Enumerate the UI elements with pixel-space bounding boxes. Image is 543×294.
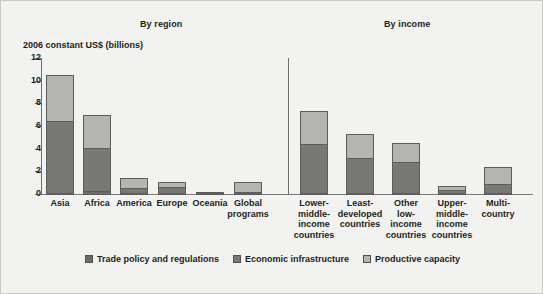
bar-segment-trade	[346, 193, 374, 195]
bar-segment-trade	[234, 193, 262, 195]
legend-swatch-icon	[233, 255, 241, 263]
bars-layer	[41, 58, 533, 194]
bar-global-programs[interactable]	[234, 182, 262, 194]
y-tick-label: 12	[15, 53, 41, 62]
legend-swatch-icon	[85, 255, 93, 263]
bar-segment-econ	[392, 162, 420, 194]
bar-segment-trade	[392, 193, 420, 195]
bar-segment-prod	[484, 167, 512, 185]
y-tick-label: 8	[15, 98, 41, 107]
bar-multi-country[interactable]	[484, 167, 512, 194]
x-axis-label-line: countries	[285, 230, 343, 241]
legend-item[interactable]: Trade policy and regulations	[85, 254, 219, 264]
bar-segment-prod	[346, 134, 374, 159]
y-tick-label: 6	[15, 121, 41, 130]
bar-least-developed-countries[interactable]	[346, 134, 374, 194]
x-axis-label-line: income	[423, 219, 481, 230]
bar-segment-trade	[158, 193, 186, 195]
bar-segment-trade	[83, 191, 111, 195]
x-axis-label: Multi-country	[469, 198, 527, 219]
bar-segment-prod	[83, 115, 111, 149]
bar-segment-econ	[83, 148, 111, 192]
bar-lower-middle-income-countries[interactable]	[300, 111, 328, 194]
legend-label: Economic infrastructure	[245, 254, 349, 264]
chart-legend: Trade policy and regulationsEconomic inf…	[1, 254, 543, 264]
y-tick-label: 4	[15, 144, 41, 153]
legend-label: Trade policy and regulations	[97, 254, 219, 264]
y-axis-title: 2006 constant US$ (billions)	[23, 40, 143, 50]
bar-africa[interactable]	[83, 115, 111, 194]
bar-asia[interactable]	[46, 75, 74, 194]
bar-segment-prod	[300, 111, 328, 145]
bar-segment-econ	[346, 158, 374, 194]
legend-item[interactable]: Economic infrastructure	[233, 254, 349, 264]
bar-upper-middle-income-countries[interactable]	[438, 186, 466, 194]
bar-segment-econ	[300, 144, 328, 194]
bar-other-low-income-countries[interactable]	[392, 143, 420, 194]
x-axis-label-line: country	[469, 209, 527, 220]
x-axis-label: Globalprograms	[219, 198, 277, 219]
y-tick-label: 10	[15, 76, 41, 85]
bar-segment-trade	[438, 193, 466, 195]
y-axis-ticks: 024681012	[1, 1, 41, 294]
stacked-bar-chart-figure: By region By income 2006 constant US$ (b…	[0, 0, 543, 294]
bar-segment-econ	[46, 121, 74, 194]
bar-oceania[interactable]	[196, 192, 224, 194]
bar-segment-trade	[46, 193, 74, 195]
bar-segment-prod	[46, 75, 74, 123]
legend-label: Productive capacity	[375, 254, 460, 264]
y-tick-label: 2	[15, 166, 41, 175]
y-tick-label: 0	[15, 189, 41, 198]
x-axis-label-line: programs	[219, 209, 277, 220]
bar-segment-trade	[300, 193, 328, 195]
x-axis-label-line: Multi-	[469, 198, 527, 209]
bar-segment-trade	[484, 193, 512, 195]
bar-europe[interactable]	[158, 182, 186, 194]
bar-segment-prod	[392, 143, 420, 163]
x-axis-label-line: countries	[423, 230, 481, 241]
x-axis-label-line: Global	[219, 198, 277, 209]
bar-america[interactable]	[120, 178, 148, 194]
bar-segment-trade	[120, 193, 148, 195]
bar-segment-trade	[196, 193, 224, 195]
legend-item[interactable]: Productive capacity	[363, 254, 460, 264]
group-header-by-income: By income	[384, 19, 430, 29]
group-header-by-region: By region	[140, 19, 182, 29]
legend-swatch-icon	[363, 255, 371, 263]
